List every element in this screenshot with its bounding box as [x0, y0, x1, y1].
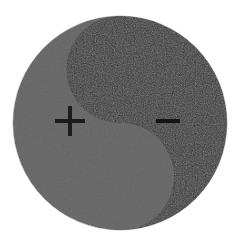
minus-mark	[156, 119, 180, 123]
minus-mark-bar	[156, 119, 180, 123]
yang-light-lobe	[67, 123, 174, 230]
yin-yang-diagram	[0, 0, 243, 244]
figure-root: Yin-Yang Symbol with Polarity Marks + − …	[0, 0, 243, 244]
plus-mark-vertical-bar	[68, 106, 72, 136]
yin-dark-lobe	[67, 16, 174, 123]
